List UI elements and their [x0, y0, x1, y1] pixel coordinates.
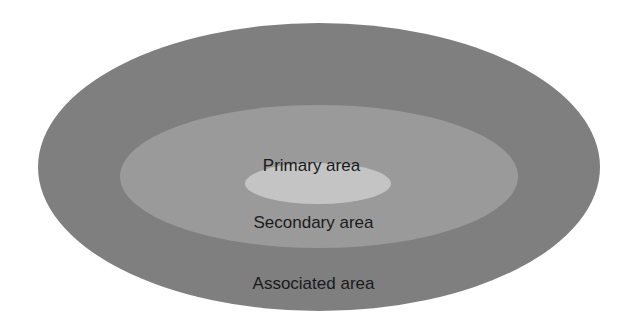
primary-area-label: Primary area [0, 156, 627, 176]
associated-area-label: Associated area [0, 274, 629, 294]
secondary-area-label: Secondary area [0, 213, 629, 233]
nested-area-diagram: Primary area Secondary area Associated a… [0, 0, 631, 327]
